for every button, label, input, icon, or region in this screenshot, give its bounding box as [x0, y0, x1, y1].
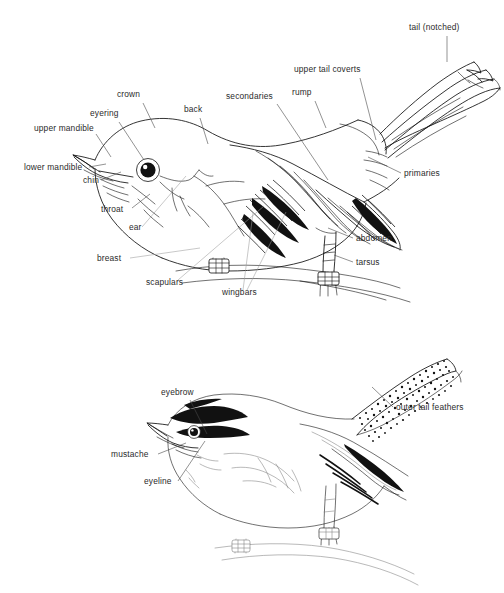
label-upper-mandible: upper mandible [34, 123, 94, 133]
label-back: back [184, 104, 203, 114]
label-tail-notched: tail (notched) [409, 22, 460, 32]
label-primaries: primaries [404, 168, 440, 178]
eye-pupil [140, 162, 155, 177]
label-crown: crown [117, 89, 140, 99]
label-tarsus: tarsus [356, 257, 380, 267]
lower-eye-highlight [191, 429, 193, 431]
label-outer-tail-feathers: outer tail feathers [396, 402, 464, 412]
label-lower-mandible: lower mandible [24, 162, 83, 172]
label-throat: throat [101, 204, 124, 214]
lower-eye-pupil [190, 428, 198, 436]
label-mustache: mustache [111, 449, 149, 459]
label-breast: breast [97, 253, 122, 263]
eye-highlight [143, 165, 147, 169]
label-rump: rump [292, 87, 312, 97]
label-scapulars: scapulars [146, 277, 183, 287]
label-eyering: eyering [90, 108, 119, 118]
label-secondaries: secondaries [226, 91, 273, 101]
label-upper-tail-coverts: upper tail coverts [294, 64, 360, 74]
label-ear: ear [129, 222, 142, 232]
label-abdomen: abdomen [356, 233, 392, 243]
label-chin: chin [83, 175, 99, 185]
bird-topography-diagram: tail (notched) upper tail coverts rump s… [0, 0, 504, 593]
label-eyebrow: eyebrow [161, 387, 195, 397]
label-eyeline: eyeline [144, 476, 172, 486]
label-wingbars: wingbars [221, 287, 257, 297]
